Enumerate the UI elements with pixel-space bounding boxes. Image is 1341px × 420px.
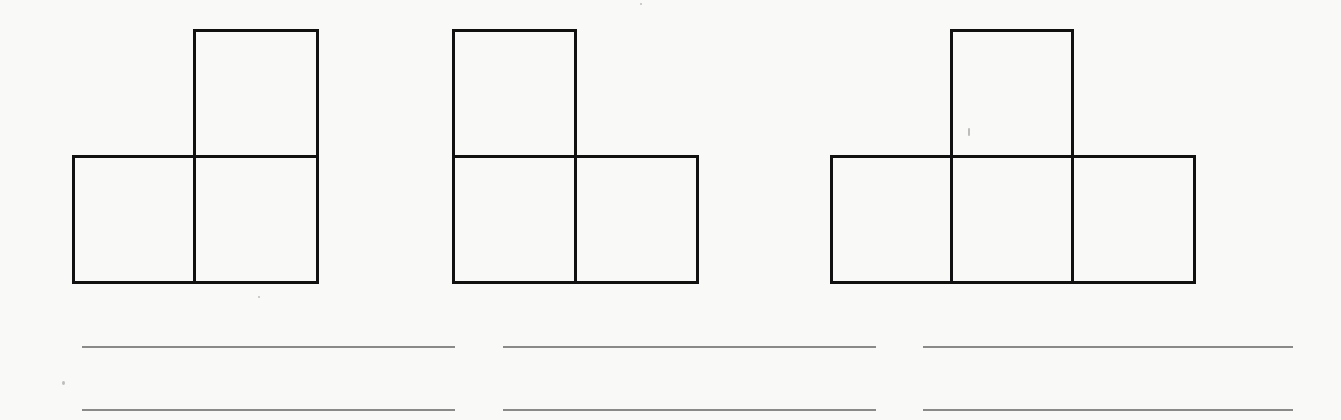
shape-1-cell-top-right bbox=[193, 29, 319, 158]
worksheet bbox=[0, 0, 1341, 420]
shape-3-cell-bottom-right bbox=[1071, 155, 1196, 284]
shape-3-cell-bottom-center bbox=[950, 155, 1074, 284]
answer-line-2a[interactable] bbox=[503, 346, 876, 348]
answer-line-3a[interactable] bbox=[923, 346, 1293, 348]
shape-1-cell-bottom-left bbox=[72, 155, 196, 284]
paper-speck bbox=[62, 381, 65, 385]
shape-2-l-figure bbox=[452, 29, 699, 284]
answer-line-3b[interactable] bbox=[923, 409, 1293, 411]
shape-2-cell-bottom-left bbox=[452, 155, 577, 284]
shape-3-cell-top-center bbox=[950, 29, 1074, 158]
answer-line-1a[interactable] bbox=[82, 346, 455, 348]
paper-speck bbox=[640, 3, 642, 5]
shape-1-l-figure bbox=[72, 29, 319, 284]
shape-3-t-figure bbox=[830, 29, 1196, 284]
answer-line-1b[interactable] bbox=[82, 409, 455, 411]
paper-speck bbox=[258, 296, 260, 298]
shape-1-cell-bottom-right bbox=[193, 155, 319, 284]
shape-2-cell-top-left bbox=[452, 29, 577, 158]
shape-3-cell-bottom-left bbox=[830, 155, 953, 284]
answer-line-2b[interactable] bbox=[503, 409, 876, 411]
shape-2-cell-bottom-right bbox=[574, 155, 699, 284]
paper-speck bbox=[968, 128, 970, 136]
